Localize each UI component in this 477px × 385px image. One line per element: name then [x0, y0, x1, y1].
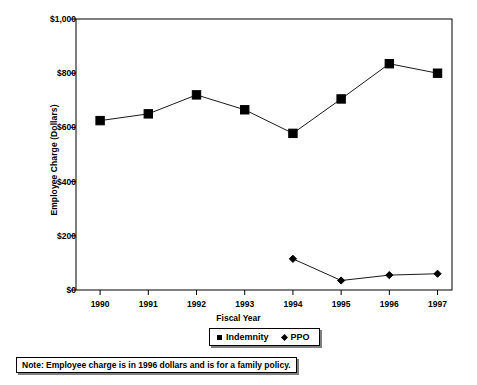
square-marker-icon	[217, 335, 222, 340]
x-axis-tick-label: 1991	[139, 299, 158, 309]
chart-legend: Indemnity PPO	[209, 328, 320, 346]
x-axis-tick-label: 1994	[283, 299, 302, 309]
x-axis-tick-label: 1996	[380, 299, 399, 309]
legend-label-ppo: PPO	[291, 332, 310, 342]
legend-entry-indemnity: Indemnity	[217, 332, 269, 342]
y-axis-tick-label: $0	[28, 285, 76, 295]
y-axis-tick-label: $200	[28, 231, 76, 241]
y-axis-tick-label: $400	[28, 177, 76, 187]
y-axis-tick-label: $800	[28, 68, 76, 78]
y-axis-tick-labels: $0$200$400$600$800$1,000	[0, 0, 76, 385]
x-axis-tick-label: 1990	[91, 299, 110, 309]
diamond-marker-icon	[280, 333, 287, 340]
y-axis-tick-label: $600	[28, 122, 76, 132]
x-axis-tick-label: 1993	[235, 299, 254, 309]
chart-figure: Employee Charge (Dollars) $0$200$400$600…	[0, 0, 477, 385]
legend-entry-ppo: PPO	[282, 332, 310, 342]
x-axis-tick-label: 1992	[187, 299, 206, 309]
x-axis-tick-label: 1995	[332, 299, 351, 309]
x-axis-tick-label: 1997	[428, 299, 447, 309]
x-axis-title: Fiscal Year	[0, 313, 477, 323]
chart-note: Note: Employee charge is in 1996 dollars…	[16, 357, 297, 373]
y-axis-tick-label: $1,000	[28, 14, 76, 24]
chart-note-text: Note: Employee charge is in 1996 dollars…	[22, 360, 291, 370]
legend-label-indemnity: Indemnity	[226, 332, 269, 342]
